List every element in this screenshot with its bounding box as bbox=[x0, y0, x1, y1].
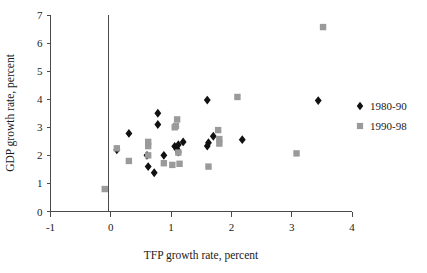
scatter-chart: 01234567 -101234 TFP growth rate, percen… bbox=[0, 0, 427, 273]
legend-marker-square-icon bbox=[357, 123, 363, 129]
data-point-1990-98 bbox=[176, 161, 182, 167]
x-tick-label: 3 bbox=[289, 221, 295, 233]
data-point-1980-90 bbox=[315, 96, 322, 105]
data-point-1980-90 bbox=[125, 129, 132, 138]
x-axis-ticks bbox=[51, 212, 353, 217]
data-point-1990-98 bbox=[320, 24, 326, 30]
data-point-1980-90 bbox=[204, 96, 211, 105]
data-point-1990-98 bbox=[114, 145, 120, 151]
data-point-1990-98 bbox=[145, 152, 151, 158]
y-axis-tick-labels: 01234567 bbox=[37, 9, 43, 218]
data-point-1990-98 bbox=[293, 150, 299, 156]
data-point-1980-90 bbox=[154, 120, 161, 129]
x-tick-label: 2 bbox=[229, 221, 235, 233]
data-point-1980-90 bbox=[151, 168, 158, 177]
data-point-1990-98 bbox=[102, 186, 108, 192]
x-tick-label: 4 bbox=[349, 221, 355, 233]
y-tick-label: 2 bbox=[37, 149, 43, 161]
data-point-1990-98 bbox=[205, 163, 211, 169]
y-axis-title: GDP growth rate, percent bbox=[4, 53, 17, 172]
y-tick-label: 5 bbox=[37, 65, 43, 77]
data-point-1980-90 bbox=[239, 135, 246, 144]
y-tick-label: 6 bbox=[37, 37, 43, 49]
data-point-1990-98 bbox=[215, 127, 221, 133]
legend-label: 1980-90 bbox=[370, 100, 407, 112]
y-tick-label: 7 bbox=[37, 9, 43, 21]
chart-legend: 1980-901990-98 bbox=[357, 100, 407, 132]
y-tick-label: 3 bbox=[37, 121, 43, 133]
legend-label: 1990-98 bbox=[370, 120, 407, 132]
data-point-1990-98 bbox=[173, 123, 179, 129]
series-1990-98-points bbox=[102, 24, 327, 192]
data-point-1990-98 bbox=[174, 116, 180, 122]
x-tick-label: 1 bbox=[168, 221, 174, 233]
data-point-1990-98 bbox=[145, 143, 151, 149]
y-tick-label: 0 bbox=[37, 206, 43, 218]
data-point-1980-90 bbox=[160, 151, 167, 160]
data-point-1990-98 bbox=[216, 140, 222, 146]
legend-marker-diamond-icon bbox=[357, 102, 364, 110]
x-axis-title: TFP growth rate, percent bbox=[144, 249, 259, 262]
data-point-1990-98 bbox=[175, 149, 181, 155]
x-axis-tick-labels: -101234 bbox=[46, 221, 355, 233]
y-tick-label: 4 bbox=[37, 93, 43, 105]
data-point-1980-90 bbox=[145, 162, 152, 171]
data-point-1990-98 bbox=[161, 160, 167, 166]
x-tick-label: -1 bbox=[46, 221, 55, 233]
x-tick-label: 0 bbox=[108, 221, 114, 233]
data-point-1990-98 bbox=[169, 162, 175, 168]
chart-plot-area: 01234567 -101234 TFP growth rate, percen… bbox=[0, 0, 427, 273]
data-point-1990-98 bbox=[234, 94, 240, 100]
data-point-1980-90 bbox=[154, 109, 161, 118]
data-point-1990-98 bbox=[126, 158, 132, 164]
y-axis-ticks bbox=[47, 15, 51, 212]
y-tick-label: 1 bbox=[37, 177, 43, 189]
